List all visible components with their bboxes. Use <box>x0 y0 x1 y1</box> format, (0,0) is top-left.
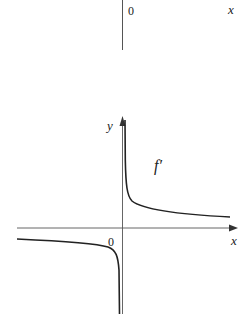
origin-label: 0 <box>108 235 114 249</box>
x-axis-arrow-icon <box>229 225 238 232</box>
derivative-graph: y f′ 0 x <box>17 116 238 314</box>
y-axis-label: y <box>105 118 113 133</box>
curve-left-branch <box>17 239 120 314</box>
curve-right-branch <box>125 120 230 217</box>
top-x-axis-label: x <box>227 2 234 17</box>
top-graph: 0 x <box>123 0 235 50</box>
curve-label: f′ <box>154 157 162 175</box>
figure-canvas: 0 x y f′ 0 x <box>0 0 247 314</box>
top-origin-label: 0 <box>128 4 134 18</box>
x-axis-label: x <box>230 233 237 248</box>
